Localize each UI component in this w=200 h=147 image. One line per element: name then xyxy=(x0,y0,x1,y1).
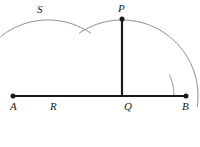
point-marker-a xyxy=(11,94,16,99)
arc-right-from-Q-wide xyxy=(170,75,175,96)
point-marker-p xyxy=(120,17,125,22)
arc-from-Q xyxy=(80,20,199,107)
point-label-a: A xyxy=(10,101,17,112)
point-label-q: Q xyxy=(124,101,132,112)
point-label-p: P xyxy=(118,3,125,14)
point-label-r: R xyxy=(50,101,57,112)
point-label-b: B xyxy=(182,101,189,112)
geometry-figure: ABPQRS xyxy=(0,0,200,147)
point-marker-b xyxy=(184,94,189,99)
point-label-s: S xyxy=(37,4,43,15)
figure-canvas xyxy=(0,0,200,147)
arc-layer xyxy=(0,0,198,107)
point-marker-layer xyxy=(11,17,189,99)
